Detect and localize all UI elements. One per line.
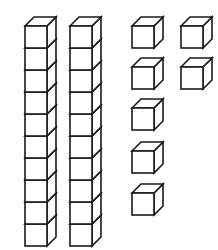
tens-rod-2-cube-4-front-face: [70, 92, 92, 114]
unit-cube-6: [132, 142, 163, 173]
blocks-canvas: [0, 0, 218, 250]
unit-cube-7: [132, 184, 163, 215]
tens-rod-1-cube-10-front-face: [25, 224, 47, 246]
unit-cube-5: [132, 99, 163, 130]
tens-rod-1-cube-1-front-face: [25, 26, 47, 48]
unit-cube-4-front-face: [181, 67, 203, 89]
tens-rod-1-cube-4-front-face: [25, 92, 47, 114]
tens-rod-2-cube-3-front-face: [70, 70, 92, 92]
unit-cube-4: [181, 58, 212, 89]
unit-cube-2: [181, 17, 212, 48]
tens-rod-2-cube-5-front-face: [70, 114, 92, 136]
unit-cube-3-front-face: [132, 67, 154, 89]
tens-rod-2-cube-10-front-face: [70, 224, 92, 246]
unit-cube-6-front-face: [132, 151, 154, 173]
tens-rod-2-cube-7-front-face: [70, 158, 92, 180]
unit-cube-7-front-face: [132, 193, 154, 215]
tens-rod-2-cube-2-front-face: [70, 48, 92, 70]
unit-cube-3: [132, 58, 163, 89]
tens-rod-2-cube-6-front-face: [70, 136, 92, 158]
tens-rod-2-cube-1-front-face: [70, 26, 92, 48]
unit-cube-1-front-face: [132, 26, 154, 48]
tens-rod-2-cube-8-front-face: [70, 180, 92, 202]
tens-rod-1-cube-2-front-face: [25, 48, 47, 70]
unit-cube-1: [132, 17, 163, 48]
tens-rod-2: [70, 17, 101, 246]
base-ten-blocks-figure: Base-ten blocks: [0, 0, 218, 250]
tens-rod-1-cube-9-front-face: [25, 202, 47, 224]
unit-cubes-group: [132, 17, 212, 215]
tens-rod-1-cube-5-front-face: [25, 114, 47, 136]
unit-cube-5-front-face: [132, 108, 154, 130]
unit-cube-2-front-face: [181, 26, 203, 48]
tens-rod-2-cube-9-front-face: [70, 202, 92, 224]
tens-rod-2-cube-1: [70, 17, 101, 48]
tens-rod-1-cube-3-front-face: [25, 70, 47, 92]
tens-rod-1: [25, 17, 56, 246]
tens-rod-1-cube-1: [25, 17, 56, 48]
tens-rod-1-cube-8-front-face: [25, 180, 47, 202]
tens-rod-1-cube-6-front-face: [25, 136, 47, 158]
tens-rod-1-cube-7-front-face: [25, 158, 47, 180]
